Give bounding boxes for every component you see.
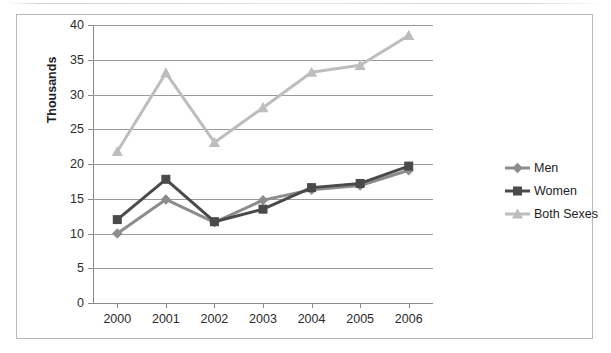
x-axis-tick-label: 2001	[152, 312, 180, 326]
x-axis-tick	[409, 303, 410, 308]
page-edge-rule	[0, 3, 611, 4]
y-axis-tick-label: 25	[70, 122, 84, 136]
legend-item-men[interactable]: Men	[504, 156, 586, 179]
series-plot	[93, 25, 433, 303]
x-axis-tick	[166, 303, 167, 308]
chart-legend: MenWomenBoth Sexes	[504, 156, 586, 225]
series-both-sexes	[112, 30, 415, 156]
legend-item-women[interactable]: Women	[504, 179, 586, 202]
legend-item-label: Women	[534, 184, 577, 198]
series-men	[112, 165, 414, 239]
x-axis-tick-label: 2003	[249, 312, 277, 326]
y-axis-tick-label: 0	[77, 296, 84, 310]
y-axis-tick-label: 5	[77, 261, 84, 275]
x-axis-tick	[312, 303, 313, 308]
x-axis-tick	[360, 303, 361, 308]
x-axis-tick-label: 2002	[201, 312, 229, 326]
x-axis-tick	[117, 303, 118, 308]
x-axis-tick	[263, 303, 264, 308]
data-point-marker	[160, 67, 171, 77]
y-axis-tick-label: 15	[70, 192, 84, 206]
legend-key-icon	[504, 185, 531, 197]
y-axis-tick	[88, 303, 93, 304]
x-axis-tick-label: 2006	[395, 312, 423, 326]
data-point-marker	[403, 30, 414, 40]
data-point-marker	[258, 195, 268, 205]
x-axis-tick-label: 2000	[103, 312, 131, 326]
x-axis-tick	[214, 303, 215, 308]
y-axis-tick-label: 10	[70, 227, 84, 241]
data-point-marker	[404, 162, 413, 171]
data-point-marker	[356, 179, 365, 188]
x-axis-tick-label: 2004	[298, 312, 326, 326]
data-point-marker	[161, 175, 170, 184]
legend-item-both-sexes[interactable]: Both Sexes	[504, 202, 586, 225]
series-line	[117, 35, 408, 151]
y-axis-tick-label: 30	[70, 88, 84, 102]
legend-key-icon	[504, 208, 531, 220]
data-point-marker	[210, 217, 219, 226]
plot-area: 0510152025303540 20002001200220032004200…	[93, 25, 433, 303]
y-axis-tick-label: 35	[70, 53, 84, 67]
series-women	[113, 162, 413, 227]
legend-key-icon	[504, 162, 531, 174]
y-axis-title-label: Thousands	[45, 57, 59, 124]
y-axis-tick-label: 40	[70, 18, 84, 32]
legend-item-label: Men	[534, 161, 558, 175]
data-point-marker	[113, 215, 122, 224]
y-axis-title: Thousands	[43, 25, 61, 155]
data-point-marker	[307, 183, 316, 192]
x-axis-tick-label: 2005	[346, 312, 374, 326]
chart-frame: Thousands 0510152025303540 2000200120022…	[16, 14, 593, 339]
data-point-marker	[259, 205, 268, 214]
legend-item-label: Both Sexes	[534, 207, 598, 221]
y-axis-tick-label: 20	[70, 157, 84, 171]
